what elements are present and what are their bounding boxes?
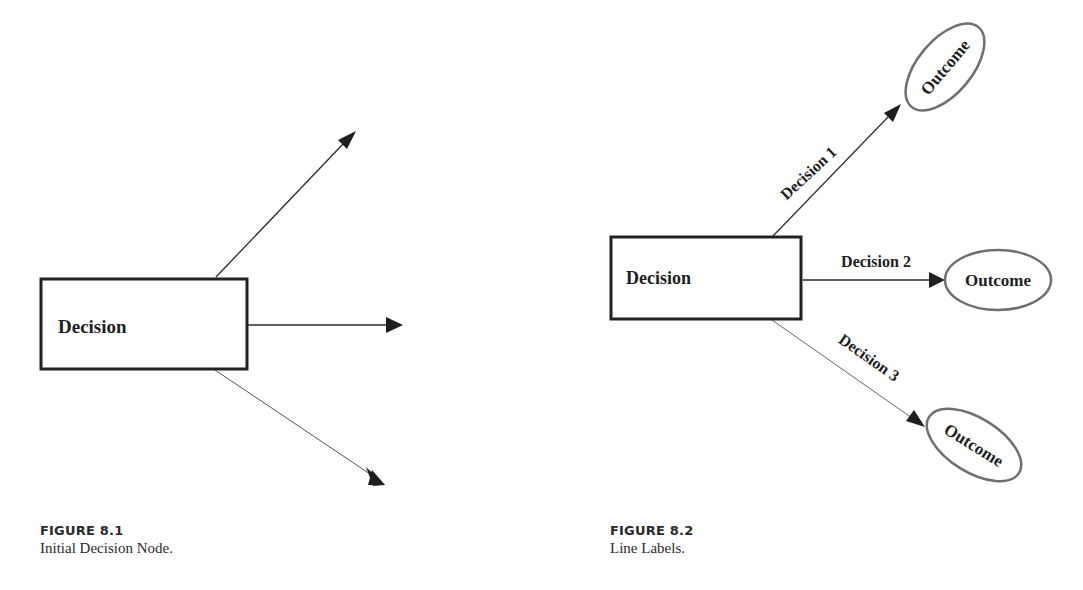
diagram-canvas: Decision Decision 1 Decision 2 Decision …	[0, 0, 1083, 590]
outcome-node-2: Outcome	[945, 250, 1051, 310]
branch-decision-3: Decision 3	[772, 320, 925, 427]
figure-caption-8-1: FIGURE 8.1 Initial Decision Node.	[40, 523, 173, 557]
decision-node-label: Decision	[626, 268, 691, 288]
arrowhead-icon	[929, 272, 945, 288]
outcome-label: Outcome	[965, 271, 1032, 290]
branch-label-decision-1: Decision 1	[777, 143, 840, 203]
decision-node: Decision	[41, 279, 247, 369]
branch-down-right	[215, 370, 385, 486]
outcome-node-1: Outcome	[891, 10, 999, 124]
branch-right	[248, 317, 403, 333]
figure-caption-8-2: FIGURE 8.2 Line Labels.	[610, 523, 693, 557]
branch-decision-2: Decision 2	[803, 253, 945, 288]
figure-title: Line Labels.	[610, 539, 693, 557]
outcome-node-3: Outcome	[915, 394, 1034, 496]
figure-8-1: Decision	[41, 131, 403, 486]
branch-label-decision-2: Decision 2	[841, 253, 911, 270]
figure-number: FIGURE 8.1	[40, 523, 173, 539]
figure-number: FIGURE 8.2	[610, 523, 693, 539]
figure-title: Initial Decision Node.	[40, 539, 173, 557]
figure-8-2: Decision 1 Decision 2 Decision 3 Decisio…	[611, 10, 1051, 496]
branch-decision-1: Decision 1	[773, 104, 901, 236]
arrowhead-icon	[386, 317, 403, 333]
branch-label-decision-3: Decision 3	[836, 331, 903, 385]
decision-node: Decision	[611, 237, 801, 319]
decision-node-label: Decision	[58, 316, 127, 337]
arrowhead-icon	[906, 410, 925, 427]
branch-up-right	[216, 131, 356, 277]
